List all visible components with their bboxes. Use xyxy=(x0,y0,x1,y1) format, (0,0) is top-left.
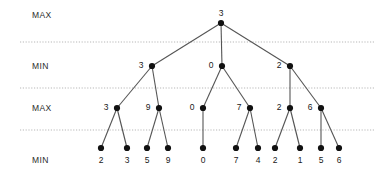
node-value-label: 2 xyxy=(95,155,107,165)
tree-node[interactable] xyxy=(98,145,104,151)
node-value-label: 5 xyxy=(141,155,153,165)
node-value-label: 3 xyxy=(215,8,227,18)
tree-edge xyxy=(159,108,168,148)
node-value-label: 9 xyxy=(162,155,174,165)
tree-edge xyxy=(147,108,159,148)
level-1-label: MIN xyxy=(32,61,49,71)
level-3-label: MIN xyxy=(32,155,49,165)
tree-canvas xyxy=(0,0,383,179)
node-value-label: 0 xyxy=(197,155,209,165)
node-value-label: 6 xyxy=(304,102,316,112)
node-value-label: 7 xyxy=(233,102,245,112)
tree-node[interactable] xyxy=(272,145,278,151)
node-value-label: 2 xyxy=(273,60,285,70)
tree-node[interactable] xyxy=(218,20,224,26)
node-value-label: 1 xyxy=(294,155,306,165)
tree-node[interactable] xyxy=(219,63,225,69)
tree-edge xyxy=(117,108,127,148)
tree-edge xyxy=(236,108,250,148)
node-value-label: 2 xyxy=(273,102,285,112)
tree-node[interactable] xyxy=(124,145,130,151)
node-value-label: 7 xyxy=(230,155,242,165)
tree-edge xyxy=(221,23,222,66)
tree-node[interactable] xyxy=(287,63,293,69)
tree-node[interactable] xyxy=(287,105,293,111)
tree-node[interactable] xyxy=(114,105,120,111)
node-value-label: 3 xyxy=(100,102,112,112)
tree-edge xyxy=(275,108,290,148)
tree-edge xyxy=(290,108,300,148)
tree-edge xyxy=(203,66,222,108)
tree-node[interactable] xyxy=(233,145,239,151)
node-value-label: 3 xyxy=(121,155,133,165)
game-tree-diagram: 330239072623590742156MAXMINMAXMIN xyxy=(0,0,383,179)
tree-node[interactable] xyxy=(318,105,324,111)
tree-node[interactable] xyxy=(144,145,150,151)
tree-node-group xyxy=(98,20,342,151)
node-value-label: 2 xyxy=(269,155,281,165)
tree-edge xyxy=(321,108,339,148)
node-value-label: 0 xyxy=(205,60,217,70)
tree-node[interactable] xyxy=(297,145,303,151)
tree-node[interactable] xyxy=(200,105,206,111)
tree-node[interactable] xyxy=(255,145,261,151)
tree-node[interactable] xyxy=(336,145,342,151)
node-value-label: 5 xyxy=(315,155,327,165)
tree-node[interactable] xyxy=(156,105,162,111)
node-value-label: 0 xyxy=(186,102,198,112)
tree-node[interactable] xyxy=(165,145,171,151)
tree-edge xyxy=(101,108,117,148)
level-2-label: MAX xyxy=(32,103,52,113)
node-value-label: 9 xyxy=(142,102,154,112)
tree-node[interactable] xyxy=(200,145,206,151)
node-value-label: 3 xyxy=(135,60,147,70)
tree-edge xyxy=(250,108,258,148)
level-0-label: MAX xyxy=(32,10,52,20)
tree-node[interactable] xyxy=(318,145,324,151)
node-value-label: 4 xyxy=(252,155,264,165)
node-value-label: 6 xyxy=(333,155,345,165)
tree-node[interactable] xyxy=(149,63,155,69)
tree-node[interactable] xyxy=(247,105,253,111)
